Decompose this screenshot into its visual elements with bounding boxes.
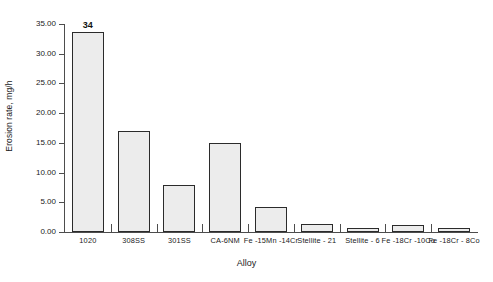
bar <box>392 225 424 232</box>
x-axis-tick <box>202 224 203 232</box>
bar <box>209 143 241 232</box>
y-axis-tick-label: 10.00 <box>10 169 56 177</box>
y-axis-tick <box>59 232 65 233</box>
y-axis-tick-label: 0.00 <box>10 228 56 236</box>
y-axis-tick-label: 20.00 <box>10 109 56 117</box>
bar-value-label: 34 <box>72 20 104 30</box>
plot-area: 34 <box>65 24 477 232</box>
x-axis-tick <box>340 224 341 232</box>
x-axis-title: Alloy <box>0 258 493 269</box>
bar <box>72 32 104 232</box>
y-axis-tick-label: 30.00 <box>10 50 56 58</box>
bar <box>163 185 195 232</box>
bar <box>438 228 470 232</box>
x-axis-tick <box>111 224 112 232</box>
x-axis-tick <box>157 224 158 232</box>
x-axis-line <box>64 232 478 233</box>
bar <box>347 228 379 232</box>
y-axis-tick-label: 5.00 <box>10 198 56 206</box>
y-axis-tick-label: 25.00 <box>10 79 56 87</box>
y-axis-tick-label: 35.00 <box>10 20 56 28</box>
x-axis-category-label: Fe -18Cr - 8Co <box>425 236 483 245</box>
x-axis-tick <box>294 224 295 232</box>
erosion-rate-bar-chart: Erosion rate, mg/h 0.005.0010.0015.0020.… <box>0 0 493 282</box>
x-axis-tick <box>248 224 249 232</box>
bar <box>118 131 150 232</box>
y-axis-tick-label: 15.00 <box>10 139 56 147</box>
x-axis-tick <box>431 224 432 232</box>
bar <box>255 207 287 232</box>
bar <box>301 224 333 232</box>
x-axis-tick <box>385 224 386 232</box>
